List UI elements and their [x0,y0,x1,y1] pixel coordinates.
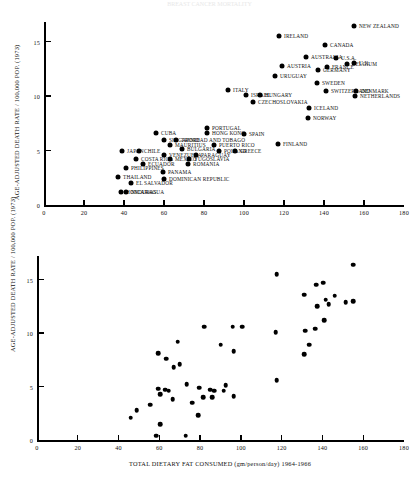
x-tick-label: 80 [201,209,208,216]
data-point-label: U.K. [359,60,370,66]
data-point [148,402,153,407]
x-tick-label: 180 [399,444,409,451]
data-point-label: HONG KONG [212,130,245,136]
x-tick-label: 120 [279,209,289,216]
data-point [190,400,195,405]
data-point [196,413,201,418]
x-tick [240,435,241,440]
data-point [154,131,159,136]
x-tick [83,200,84,205]
x-tick-label: 0 [35,444,38,451]
y-tick-label: 10 [15,330,33,337]
data-point [307,342,312,347]
data-point-label: THAILAND [123,174,152,180]
data-point-label: ROMANIA [193,161,219,167]
data-point-label: NORWAY [313,115,336,121]
x-tick-label: 160 [358,444,368,451]
data-point [154,433,159,438]
y-axis-line [37,256,39,441]
y-tick [39,332,44,333]
x-tick-label: 20 [74,444,81,451]
x-tick [323,200,324,205]
data-point [156,386,161,391]
data-point [274,272,279,277]
y-tick [46,95,51,96]
x-tick [199,435,200,440]
data-point [135,408,140,413]
data-point [351,299,356,304]
x-tick [118,435,119,440]
data-point [315,81,320,86]
data-point [276,142,281,147]
x-tick [123,200,124,205]
data-point [223,383,228,388]
data-point [344,300,349,305]
x-tick [243,200,244,205]
data-point [315,304,320,309]
x-tick-label: 40 [115,444,122,451]
x-tick [281,435,282,440]
data-point [231,349,236,354]
data-point [280,63,285,68]
data-point [332,293,337,298]
data-point-label: CUBA [161,130,176,136]
data-point [202,324,207,329]
data-point [304,54,309,59]
data-point [226,87,231,92]
y-axis-line [44,22,46,206]
data-point-label: AUSTRIA [287,63,311,69]
data-point-label: PHILIPPINES [131,165,164,171]
data-point [316,67,321,72]
data-point [351,262,356,267]
data-point [230,324,235,329]
data-point [352,61,357,66]
x-tick [363,200,364,205]
data-point [258,92,263,97]
x-tick [283,200,284,205]
data-point [325,64,330,69]
data-point [124,189,129,194]
x-tick [163,200,164,205]
data-point-label: NETHERLANDS [360,93,400,99]
data-point [168,143,173,148]
data-point [273,74,278,79]
data-point-label: HUNGARY [265,92,292,98]
y-tick-label: 15 [22,38,40,45]
data-point [221,388,226,393]
x-tick-label: 120 [277,444,287,451]
data-point [161,170,166,175]
x-axis-title: TOTAL DIETARY FAT CONSUMED (gm/person/da… [129,460,311,467]
data-point [129,181,134,186]
data-point-label: FRANCE [332,64,354,70]
x-tick-label: 140 [319,209,329,216]
x-tick-label: 40 [121,209,128,216]
data-point-label: SPAIN [249,131,265,137]
data-point-label: PANAMA [168,169,191,175]
x-tick [363,435,364,440]
data-point [175,339,180,344]
data-point [205,131,210,136]
data-point [307,106,312,111]
bottom-scatter-chart: 051015020406080100120140160180AGE-ADJUST… [0,232,419,480]
data-point [302,352,307,357]
y-tick [39,386,44,387]
data-point [326,302,331,307]
x-tick-label: 100 [239,209,249,216]
data-point [277,34,282,39]
data-point [274,378,279,383]
x-tick-label: 180 [399,209,409,216]
data-point [352,24,357,29]
data-point-label: ICELAND [314,105,338,111]
data-point [185,382,190,387]
data-point [302,292,307,297]
data-point [170,397,175,402]
data-point [162,137,167,142]
y-tick [39,279,44,280]
data-point [218,342,223,347]
data-point [137,148,142,153]
data-point-label: URUGUAY [280,73,307,79]
data-point [164,356,169,361]
data-point-label: DOMINICAN REPUBLIC [169,176,230,182]
data-point [324,88,329,93]
x-tick [203,200,204,205]
